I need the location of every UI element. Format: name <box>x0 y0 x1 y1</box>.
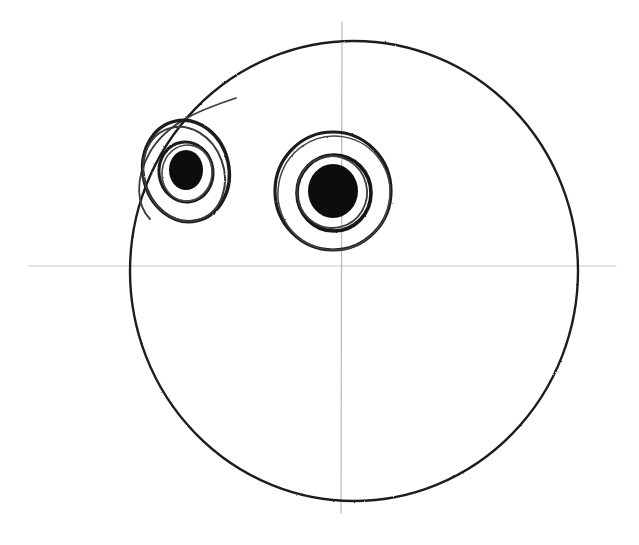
right-pupil <box>308 164 358 218</box>
right-pupil-wrap <box>308 164 358 218</box>
paper-background <box>0 0 639 545</box>
sketch-canvas <box>0 0 639 545</box>
left-pupil-wrap <box>169 150 203 190</box>
left-pupil <box>169 150 203 190</box>
sketch-drawing <box>0 0 639 545</box>
